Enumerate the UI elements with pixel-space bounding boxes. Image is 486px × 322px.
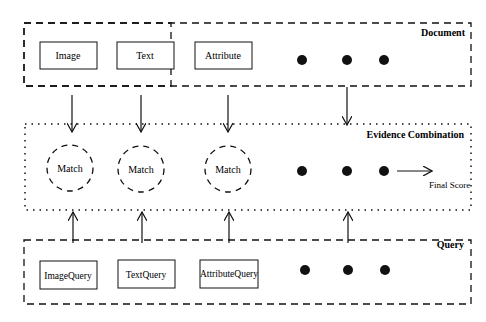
- final-score-label: Final Score: [429, 180, 470, 190]
- text-query-box-label: TextQuery: [126, 270, 167, 280]
- ellipsis-dot: [342, 166, 352, 176]
- ellipsis-dot: [297, 55, 307, 65]
- query-group-title: Query: [437, 239, 464, 250]
- ellipsis-dot: [379, 55, 389, 65]
- evidence-combination-diagram: Document Image Text Attribute Evidence C…: [0, 0, 486, 322]
- ellipsis-dot: [343, 265, 353, 275]
- attribute-box-label: Attribute: [205, 50, 242, 61]
- document-to-combination-arrows: [72, 87, 347, 132]
- attribute-query-box-label: AttributeQuery: [200, 269, 258, 279]
- ellipsis-dot: [380, 265, 390, 275]
- document-group-title: Document: [421, 27, 466, 38]
- evidence-combination-group: Evidence Combination Match Match Match: [25, 124, 471, 210]
- ellipsis-dot: [297, 166, 307, 176]
- query-group: Query ImageQuery TextQuery AttributeQuer…: [24, 239, 471, 304]
- ellipsis-dot: [342, 55, 352, 65]
- image-box-label: Image: [56, 50, 82, 61]
- image-query-box-label: ImageQuery: [44, 271, 92, 281]
- ellipsis-dot: [300, 265, 310, 275]
- text-box-label: Text: [136, 50, 154, 61]
- match-node-label: Match: [57, 163, 83, 174]
- final-score-output: Final Score: [397, 171, 470, 190]
- match-node-label: Match: [128, 164, 154, 175]
- combination-group-title: Evidence Combination: [366, 129, 464, 140]
- query-to-combination-arrows: [73, 212, 348, 243]
- ellipsis-dot: [379, 166, 389, 176]
- match-node-label: Match: [215, 164, 241, 175]
- document-group: Document Image Text Attribute: [24, 23, 471, 86]
